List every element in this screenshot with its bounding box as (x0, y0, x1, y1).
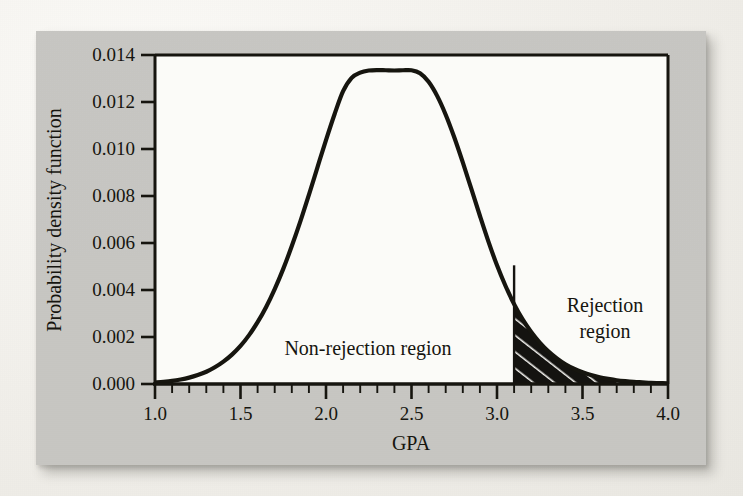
x-tick-label: 2.5 (400, 403, 424, 424)
x-axis-tick-labels: 1.01.52.02.53.03.54.0 (143, 403, 680, 424)
y-tick-label: 0.006 (92, 232, 135, 253)
y-axis-tick-labels: 0.0000.0020.0040.0060.0080.0100.0120.014 (92, 44, 135, 394)
pdf-chart: 1.01.52.02.53.03.54.0 0.0000.0020.0040.0… (0, 0, 743, 496)
y-tick-label: 0.004 (92, 279, 135, 300)
rejection-region-label-line1: Rejection (567, 294, 644, 317)
x-tick-label: 3.5 (571, 403, 595, 424)
y-axis-title: Probability density function (43, 108, 66, 331)
y-tick-label: 0.000 (92, 373, 135, 394)
y-tick-label: 0.008 (92, 185, 135, 206)
x-axis-title: GPA (392, 432, 431, 454)
y-tick-label: 0.002 (92, 326, 135, 347)
x-tick-label: 1.0 (143, 403, 167, 424)
y-axis-ticks (141, 55, 155, 384)
y-tick-label: 0.010 (92, 138, 135, 159)
x-axis-ticks (155, 384, 668, 399)
rejection-region-label-line2: region (579, 320, 630, 343)
x-tick-label: 4.0 (656, 403, 680, 424)
x-tick-label: 3.0 (485, 403, 509, 424)
y-tick-label: 0.012 (92, 91, 135, 112)
y-tick-label: 0.014 (92, 44, 135, 65)
x-tick-label: 1.5 (229, 403, 253, 424)
x-tick-label: 2.0 (314, 403, 338, 424)
non-rejection-region-label: Non-rejection region (284, 337, 451, 360)
